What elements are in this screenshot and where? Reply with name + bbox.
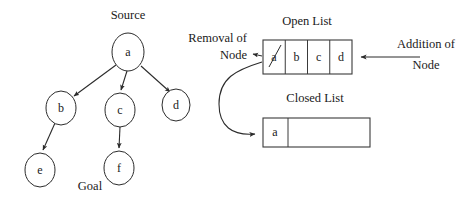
open-list-cell-label-c: c: [316, 50, 321, 64]
open-list-cell-d[interactable]: d: [338, 50, 344, 64]
node-label-c: c: [117, 103, 122, 117]
goal-caption: Goal: [78, 179, 103, 193]
closed-list-cell-a[interactable]: a: [272, 125, 278, 139]
tree-edge-a-b: [74, 65, 116, 96]
node-label-b: b: [58, 101, 64, 115]
closed-list-title: Closed List: [286, 91, 344, 105]
closed-list-cell-label-a: a: [272, 125, 278, 139]
open-list-cell-label-d: d: [338, 50, 344, 64]
tree-edge-a-d: [141, 66, 170, 92]
open-list-title: Open List: [282, 14, 332, 28]
open-list-cell-b[interactable]: b: [293, 50, 299, 64]
removal-leader-arrow: [253, 54, 262, 56]
tree-edge-c-f: [119, 127, 120, 148]
node-label-a: a: [125, 45, 131, 59]
node-label-d: d: [173, 98, 179, 112]
removal-annotation-line2: Node: [220, 48, 248, 62]
diagram-canvas: Source a b c d e: [0, 0, 472, 204]
closed-list-outline: [263, 118, 370, 147]
tree-edge-b-e: [43, 123, 55, 150]
tree-node-c[interactable]: c: [105, 93, 135, 127]
open-list-cell-c[interactable]: c: [316, 50, 321, 64]
open-list-cell-label-b: b: [293, 50, 299, 64]
closed-list-box: a: [263, 118, 370, 147]
addition-annotation-line2: Node: [412, 58, 440, 72]
search-tree-diagram: Source a b c d e: [0, 0, 472, 204]
addition-annotation-line1: Addition of: [397, 37, 456, 51]
source-caption: Source: [111, 8, 146, 22]
tree-node-f[interactable]: f: [104, 151, 134, 185]
tree-node-b[interactable]: b: [46, 91, 76, 125]
tree-node-d[interactable]: d: [162, 89, 190, 121]
removal-curve-arrow: [219, 62, 262, 134]
removal-annotation-line1: Removal of: [188, 31, 248, 45]
tree-node-e[interactable]: e: [25, 153, 55, 187]
node-label-f: f: [117, 161, 121, 175]
tree-edge-a-c: [121, 71, 127, 90]
tree-node-a[interactable]: a: [112, 33, 144, 71]
node-label-e: e: [37, 163, 42, 177]
open-list-box: a b c d: [263, 40, 352, 74]
